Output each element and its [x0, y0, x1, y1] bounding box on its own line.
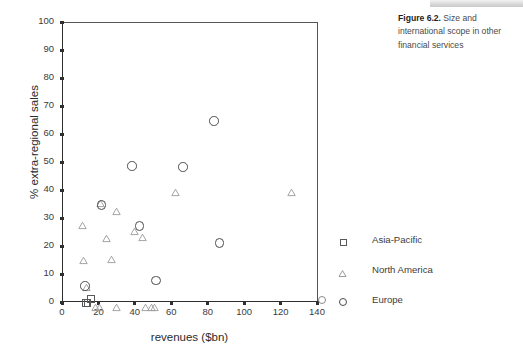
x-tick-80: [206, 301, 209, 305]
x-tick-label-80: 80: [193, 306, 223, 317]
plot-frame-top-edge: [62, 22, 318, 23]
page-edge-artifact: [430, 0, 523, 7]
x-tick-label-20: 20: [83, 306, 113, 317]
y-tick-60: [60, 133, 64, 136]
chart-legend: Asia-Pacific North America Europe: [338, 232, 508, 322]
x-tick-20: [97, 301, 100, 305]
legend-item-north-america: North America: [338, 262, 508, 292]
y-tick-100: [60, 21, 64, 24]
legend-label-north-america: North America: [372, 264, 433, 275]
x-tick-label-0: 0: [47, 306, 77, 317]
y-tick-40: [60, 189, 64, 192]
x-tick-label-60: 60: [156, 306, 186, 317]
y-tick-90: [60, 49, 64, 52]
y-tick-label-10: 10: [22, 268, 54, 278]
figure-caption: Figure 6.2. Size and international scope…: [398, 12, 523, 52]
x-tick-120: [279, 301, 282, 305]
x-axis-label: revenues ($bn): [62, 331, 317, 343]
legend-label-asia-pacific: Asia-Pacific: [372, 234, 422, 245]
x-tick-0: [61, 301, 64, 305]
x-tick-label-120: 120: [266, 306, 296, 317]
legend-item-europe: Europe: [338, 292, 508, 322]
triangle-marker-icon: [338, 266, 350, 278]
y-tick-label-100: 100: [22, 16, 54, 26]
stray-circle-marker: [318, 296, 326, 304]
y-axis-label: % extra-regional sales: [28, 42, 40, 242]
y-tick-10: [60, 273, 64, 276]
plot-frame-right-edge: [317, 22, 318, 303]
circle-marker-icon: [338, 296, 350, 308]
y-tick-80: [60, 77, 64, 80]
legend-label-europe: Europe: [372, 294, 403, 305]
x-tick-label-100: 100: [229, 306, 259, 317]
plot-frame: [62, 22, 317, 302]
x-tick-label-140: 140: [302, 306, 332, 317]
y-tick-50: [60, 161, 64, 164]
x-tick-label-40: 40: [120, 306, 150, 317]
x-tick-100: [243, 301, 246, 305]
y-tick-70: [60, 105, 64, 108]
legend-item-asia-pacific: Asia-Pacific: [338, 232, 508, 262]
y-tick-30: [60, 217, 64, 220]
y-tick-20: [60, 245, 64, 248]
x-tick-60: [170, 301, 173, 305]
x-tick-40: [133, 301, 136, 305]
figure-number: Figure 6.2.: [398, 13, 441, 23]
square-marker-icon: [338, 236, 350, 248]
y-tick-label-0: 0: [22, 296, 54, 306]
